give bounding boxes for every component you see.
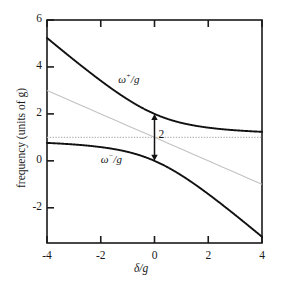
splitting-arrow-label: 2 [159, 128, 165, 140]
x-axis-label-text: δ/g [134, 262, 148, 274]
omega-minus-tail: /g [113, 152, 122, 164]
x-tick-label-1: -2 [92, 249, 110, 261]
x-tick-label-3: 2 [199, 249, 217, 261]
y-tick-label-2: 2 [20, 106, 42, 118]
y-tick-label-3: 0 [20, 153, 42, 165]
x-tick-label-0: -4 [38, 249, 56, 261]
omega-plus-symbol: ω [118, 73, 126, 85]
curve-label-omega-plus: ω+/g [118, 72, 139, 85]
omega-minus-symbol: ω [101, 152, 109, 164]
curve-label-omega-minus: ω−/g [101, 152, 122, 165]
y-tick-label-1: 4 [20, 59, 42, 71]
omega-plus-tail: /g [131, 73, 140, 85]
y-tick-label-4: -2 [20, 200, 42, 212]
x-tick-label-4: 4 [253, 249, 271, 261]
x-tick-label-2: 0 [146, 249, 164, 261]
figure-canvas [0, 0, 289, 289]
x-axis-label: δ/g [134, 262, 148, 274]
y-tick-label-0: 6 [20, 12, 42, 24]
